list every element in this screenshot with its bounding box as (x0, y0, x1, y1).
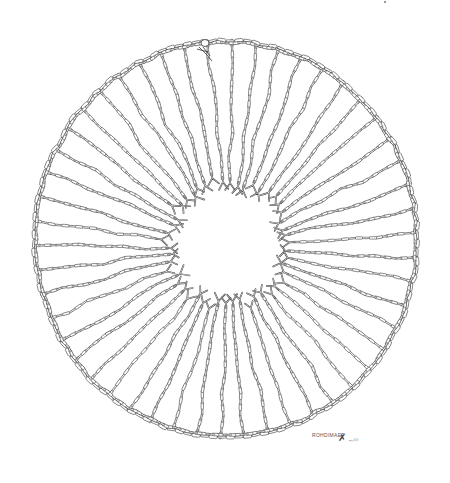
signature-mark-icon: ✗ (338, 432, 346, 443)
fork-tip-icon (282, 238, 295, 247)
fork-tip-icon (246, 179, 260, 193)
chain-spoke (49, 265, 174, 320)
fork-tip-icon (273, 255, 288, 270)
chain-spoke (282, 231, 418, 247)
chain-spoke (195, 293, 225, 437)
fork-tip-icon (166, 243, 178, 253)
chain-illustration (0, 0, 450, 483)
fork-tip-icon (251, 186, 265, 201)
fork-tip-icon (203, 302, 215, 315)
chain-spoke (127, 286, 207, 412)
fork-tip-icon (155, 234, 168, 245)
fork-tip-icon (245, 301, 256, 314)
chain-spoke (225, 39, 235, 190)
chain-spoke (44, 170, 183, 232)
chain-spoke (260, 80, 345, 201)
chain-spoke (219, 298, 231, 439)
stray-ink-dot (384, 1, 386, 3)
chain-spoke (33, 243, 177, 253)
fork-tip-icon (160, 265, 175, 278)
fork-tip-icon (194, 286, 207, 300)
chain-spoke (274, 182, 411, 239)
fork-tip-icon (225, 178, 235, 190)
chain-spoke (35, 249, 178, 272)
chain-spoke (107, 290, 196, 398)
chain-spoke (34, 219, 168, 245)
signature-tail: ~ᵒ⁾ (348, 437, 358, 445)
chain-spoke (280, 245, 418, 259)
chain-spoke (171, 302, 215, 431)
chain-spoke (232, 42, 257, 194)
fork-tip-icon (221, 298, 230, 309)
chain-spoke (53, 147, 186, 227)
chain-spoke (236, 47, 280, 198)
chain-spoke (267, 279, 372, 372)
